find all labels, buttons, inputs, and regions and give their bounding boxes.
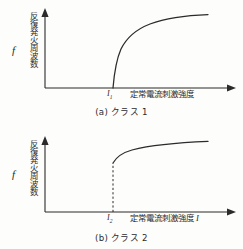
- threshold-tick-label-class1: I1: [107, 90, 112, 100]
- y-axis-symbol-label: f: [12, 169, 15, 180]
- x-axis-arrowhead: [227, 208, 236, 215]
- x-axis-title-class1: 定常電流刺激強度: [130, 90, 194, 98]
- plot-area-class1: f 反復発火周波数 I1 定常電流刺激強度: [0, 0, 243, 104]
- threshold-tick-label-class2: I2: [107, 214, 112, 224]
- figure-panel-class1: f 反復発火周波数 I1 定常電流刺激強度 (a) クラス 1: [0, 0, 243, 124]
- y-axis-symbol-label: f: [12, 45, 15, 56]
- data-curve-class2: [113, 141, 208, 163]
- plot-area-class2: f 反復発火周波数 I2 定常電流刺激強度I: [0, 124, 243, 228]
- x-axis-title-text: 定常電流刺激強度: [130, 89, 194, 99]
- threshold-subscript: 2: [110, 218, 113, 224]
- x-axis-variable-symbol: I: [194, 213, 199, 223]
- data-curve-class1: [113, 15, 208, 88]
- y-axis-title: 反復発火周波数: [24, 12, 37, 68]
- threshold-subscript: 1: [110, 94, 113, 100]
- y-axis-arrowhead: [41, 8, 48, 17]
- figure-panel-class2: f 反復発火周波数 I2 定常電流刺激強度I (b) クラス 2: [0, 124, 243, 248]
- figure-caption-class1: (a) クラス 1: [0, 108, 243, 117]
- y-axis-title: 反復発火周波数: [24, 140, 37, 196]
- x-axis-title-text: 定常電流刺激強度: [130, 213, 194, 223]
- figure-caption-class2: (b) クラス 2: [0, 234, 243, 243]
- x-axis-title-class2: 定常電流刺激強度I: [130, 214, 199, 223]
- x-axis-arrowhead: [227, 84, 236, 91]
- y-axis-arrowhead: [41, 136, 48, 145]
